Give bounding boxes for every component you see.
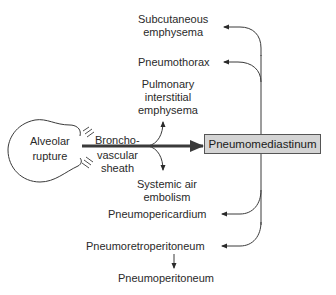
label-line: vascular [97,149,138,162]
label-line: Systemic air [137,178,197,191]
label-line: sheath [97,162,138,175]
arrow-subcutaneous [224,27,261,56]
label-pulmonary-interstitial-emphysema: Pulmonary interstitial emphysema [138,78,198,117]
label-pneumoretroperitoneum: Pneumoretroperitoneum [86,240,205,253]
arrow-pneumopericardium [222,190,261,214]
branch-down-arrow [148,146,163,170]
label-pneumoperitoneum: Pneumoperitoneum [118,272,214,285]
rupture-marks-lower [82,157,93,168]
label-line: rupture [30,150,70,163]
arrow-pneumothorax [224,62,261,82]
label-alveolar-rupture: Alveolar rupture [30,135,70,163]
label-subcutaneous-emphysema: Subcutaneous emphysema [138,13,208,39]
label-line: Alveolar [30,135,70,148]
arrow-pneumoretroperitoneum [222,222,261,246]
label-systemic-air-embolism: Systemic air embolism [137,178,197,204]
label-pneumothorax: Pneumothorax [138,56,210,69]
label-pneumopericardium: Pneumopericardium [108,208,206,221]
label-line: Pulmonary [138,78,198,91]
label-bronchovascular-sheath: vascular sheath [97,149,138,175]
label-broncho: Broncho- [95,134,140,147]
rupture-marks-upper [83,127,94,137]
label-line: embolism [137,191,197,204]
label-line: emphysema [138,26,208,39]
pneumomediastinum-box: Pneumomediastinum [204,134,321,154]
label-line: interstitial [138,91,198,104]
branch-up-arrow [148,122,163,146]
label-line: Subcutaneous [138,13,208,26]
label-line: emphysema [138,104,198,117]
